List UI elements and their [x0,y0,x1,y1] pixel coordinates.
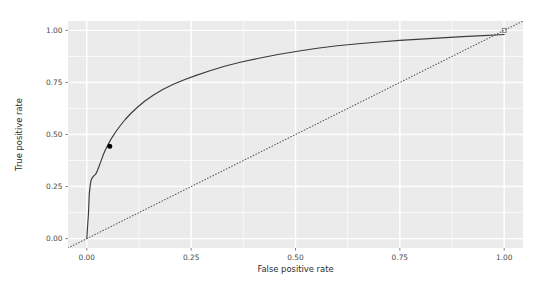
y-axis-tick-label: 0.00 [46,234,63,243]
x-axis-tick-label: 0.75 [392,253,409,262]
x-axis-tick-label: 0.25 [183,253,200,262]
y-axis-tick-label: 0.75 [46,78,63,87]
x-axis-tick-label: 1.00 [496,253,513,262]
x-axis-tick-label: 0.50 [287,253,304,262]
y-axis-tick-label: 0.25 [46,182,63,191]
x-axis-title: False positive rate [257,264,333,274]
y-axis-tick-label: 0.50 [46,130,63,139]
x-axis-tick-label: 0.00 [79,253,96,262]
optimal-threshold-point [107,144,112,149]
roc-chart-container: 0.000.250.500.751.000.000.250.500.751.00… [0,0,558,282]
roc-curve-plot: 0.000.250.500.751.000.000.250.500.751.00… [0,0,558,282]
y-axis-title: True positive rate [14,98,24,172]
y-axis-tick-label: 1.00 [46,26,63,35]
